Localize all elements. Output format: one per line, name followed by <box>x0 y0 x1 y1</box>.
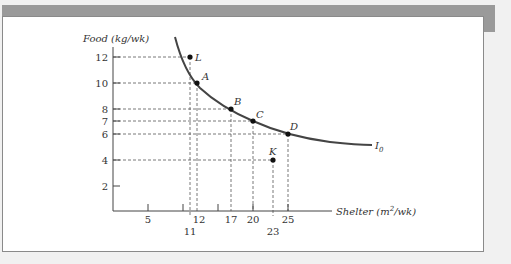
curve-label-i0: I0 <box>374 140 384 154</box>
point-b <box>228 106 233 111</box>
axes <box>113 47 332 211</box>
indifference-chart: L A B C D K I0 12 10 8 7 6 4 2 5 12 17 2… <box>0 0 511 264</box>
point-l <box>187 54 192 59</box>
point-label-l: L <box>194 52 202 63</box>
point-c <box>250 118 255 123</box>
point-a <box>194 80 199 85</box>
x-tick-11: 11 <box>184 226 197 237</box>
x-tick-20: 20 <box>247 214 260 225</box>
x-tick-12: 12 <box>193 214 206 225</box>
y-tick-2: 2 <box>102 181 108 192</box>
point-label-k: K <box>268 146 277 157</box>
x-tick-17: 17 <box>225 214 238 225</box>
y-tick-6: 6 <box>102 129 108 140</box>
point-label-c: C <box>256 109 264 120</box>
point-label-a: A <box>201 71 209 82</box>
guide-lines <box>113 57 288 216</box>
indifference-curve-i0 <box>175 37 372 145</box>
y-tick-12: 12 <box>95 52 108 63</box>
x-axis-title: Shelter (m2/wk) <box>336 205 416 217</box>
point-k <box>270 157 275 162</box>
point-d <box>285 131 290 136</box>
y-tick-7: 7 <box>102 116 108 127</box>
x-tick-25: 25 <box>282 214 295 225</box>
point-label-b: B <box>233 96 241 107</box>
y-tick-8: 8 <box>102 104 108 115</box>
x-tick-23: 23 <box>267 226 280 237</box>
x-tick-5: 5 <box>145 214 151 225</box>
y-tick-4: 4 <box>102 155 108 166</box>
point-label-d: D <box>289 121 298 132</box>
y-tick-10: 10 <box>95 78 108 89</box>
y-axis-title: Food (kg/wk) <box>82 33 149 44</box>
